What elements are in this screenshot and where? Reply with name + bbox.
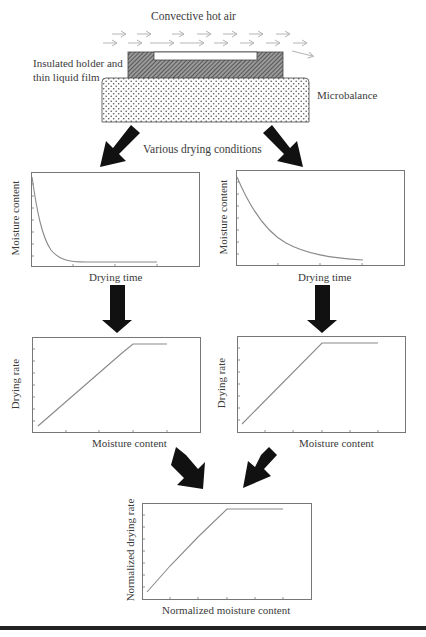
normalized-drying-rate-plot — [142, 503, 312, 600]
bottom-rule — [0, 626, 426, 630]
normalized-drying-rate-xlabel: Normalized moisture content — [162, 604, 290, 616]
normalized-drying-rate-ylabel: Normalized drying rate — [124, 490, 136, 610]
